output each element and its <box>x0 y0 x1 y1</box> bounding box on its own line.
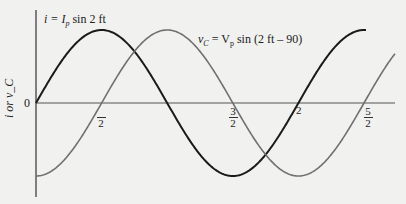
voltage-equation-label: vC = Vp sin (2 ft – 90) <box>198 32 302 48</box>
tick-label-half-pi: 2 <box>94 106 108 129</box>
current-equation-label: i = Ip sin 2 ft <box>44 12 106 28</box>
tick-label-five-half-pi: 52 <box>361 106 375 129</box>
waveform-plot <box>0 0 406 204</box>
tick-label-three-half-pi: 32 <box>226 106 240 129</box>
origin-label: 0 <box>24 96 30 111</box>
tick-label-two-pi: 2 <box>296 104 302 116</box>
y-axis-label: i or v_C <box>2 79 17 118</box>
